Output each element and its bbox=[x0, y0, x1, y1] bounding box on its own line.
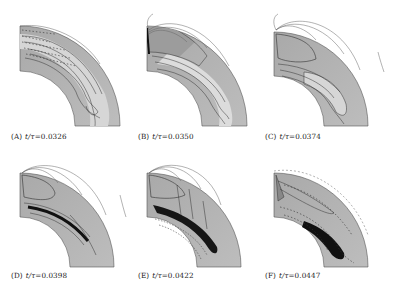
contour-plot-b bbox=[137, 14, 255, 134]
panel-caption-b: (B)t/τ=0.0350 bbox=[138, 132, 194, 141]
panel-caption-c: (C)t/τ=0.0374 bbox=[265, 132, 321, 141]
contour-plot-a bbox=[10, 14, 128, 134]
panel-caption-d: (D)t/τ=0.0398 bbox=[11, 271, 67, 280]
time-value: =0.0374 bbox=[289, 132, 321, 141]
time-variable: t/τ bbox=[25, 132, 35, 141]
contour-plot-e bbox=[137, 155, 255, 275]
time-value: =0.0350 bbox=[162, 132, 194, 141]
panel-caption-f: (F)t/τ=0.0447 bbox=[265, 271, 320, 280]
time-variable: t/τ bbox=[26, 271, 36, 280]
panel-label: (A) bbox=[11, 132, 22, 141]
panel-label: (C) bbox=[265, 132, 276, 141]
time-variable: t/τ bbox=[152, 132, 162, 141]
panel-label: (F) bbox=[265, 271, 276, 280]
time-variable: t/τ bbox=[279, 132, 289, 141]
panel-caption-e: (E)t/τ=0.0422 bbox=[138, 271, 194, 280]
panel-c: (C)t/τ=0.0374 bbox=[264, 14, 382, 134]
panel-f: (F)t/τ=0.0447 bbox=[264, 155, 382, 275]
panel-label: (B) bbox=[138, 132, 149, 141]
time-value: =0.0398 bbox=[35, 271, 67, 280]
panel-b: (B)t/τ=0.0350 bbox=[137, 14, 255, 134]
panel-label: (D) bbox=[11, 271, 23, 280]
contour-plot-c bbox=[264, 14, 382, 134]
panel-caption-a: (A)t/τ=0.0326 bbox=[11, 132, 67, 141]
panel-label: (E) bbox=[138, 271, 149, 280]
panel-a: (A)t/τ=0.0326 bbox=[10, 14, 128, 134]
time-value: =0.0326 bbox=[35, 132, 67, 141]
panel-e: (E)t/τ=0.0422 bbox=[137, 155, 255, 275]
time-value: =0.0422 bbox=[162, 271, 194, 280]
contour-plot-f bbox=[264, 155, 382, 275]
time-variable: t/τ bbox=[279, 271, 289, 280]
contour-plot-d bbox=[10, 155, 128, 275]
time-variable: t/τ bbox=[152, 271, 162, 280]
panel-d: (D)t/τ=0.0398 bbox=[10, 155, 128, 275]
time-value: =0.0447 bbox=[289, 271, 321, 280]
